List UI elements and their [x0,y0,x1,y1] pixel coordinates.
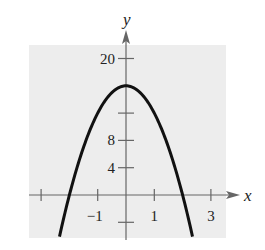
y-tick-label: 4 [108,160,116,176]
y-tick-label: 20 [100,51,115,67]
parabola-chart: −113 4820 x y [0,0,265,250]
x-tick-label: 1 [151,208,159,224]
y-axis-label: y [121,10,131,29]
plot-background [29,45,226,238]
y-tick-label: 8 [108,132,116,148]
x-axis-label: x [243,186,252,205]
x-tick-label: 3 [207,208,215,224]
x-tick-label: −1 [87,208,103,224]
